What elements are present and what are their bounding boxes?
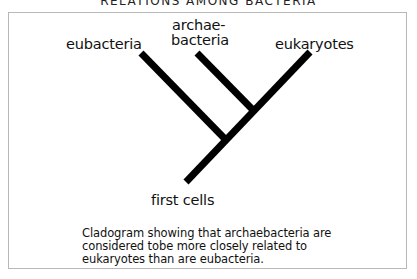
caption-line: considered tobe more closely related to [82, 240, 331, 253]
caption-line: eukaryotes than are eubacteria. [82, 253, 331, 266]
leaf-label-archaebacteria-line1: archae- [172, 18, 225, 32]
branch-archaebacteria [197, 53, 254, 111]
caption-line: Cladogram showing that archaebacteria ar… [82, 227, 331, 240]
root-label-first-cells: first cells [151, 193, 214, 207]
leaf-label-eukaryotes: eukaryotes [275, 37, 354, 51]
leaf-label-eubacteria: eubacteria [66, 37, 142, 51]
figure-caption: Cladogram showing that archaebacteria ar… [82, 227, 331, 265]
leaf-label-archaebacteria-line2: bacteria [171, 33, 229, 47]
